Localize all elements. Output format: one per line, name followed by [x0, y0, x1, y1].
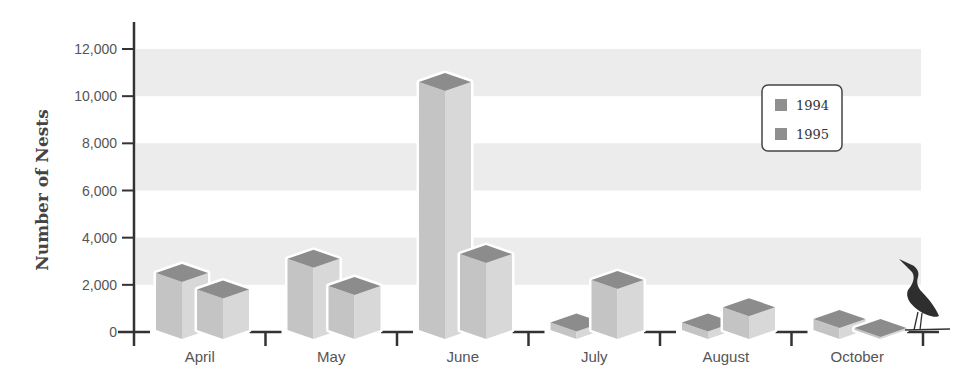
bar-1995-july — [592, 271, 644, 339]
bar-face-right — [355, 286, 381, 339]
x-tick-label: July — [581, 348, 608, 365]
x-tick-label: June — [446, 348, 479, 365]
heron-leg — [914, 312, 918, 330]
y-tick-label: 4,000 — [82, 230, 117, 246]
y-tick-label: 0 — [109, 324, 117, 340]
bar-1995-may — [329, 277, 381, 339]
bar-1995-june — [460, 245, 512, 339]
x-tick-label: August — [702, 348, 750, 365]
x-tick-label: April — [185, 348, 215, 365]
bar-face-right — [618, 280, 644, 339]
y-tick-label: 12,000 — [74, 41, 117, 57]
grid-band — [136, 238, 921, 285]
legend-swatch — [775, 128, 787, 140]
bar-face-left — [460, 254, 486, 339]
y-tick-label: 10,000 — [74, 88, 117, 104]
x-axis: AprilMayJuneJulyAugustOctober — [118, 332, 939, 365]
bar-face-left — [329, 286, 355, 339]
bar-1995-april — [197, 280, 249, 339]
legend-label: 1995 — [796, 127, 829, 142]
y-tick-label: 8,000 — [82, 135, 117, 151]
bar-face-left — [288, 259, 314, 339]
water-line — [905, 329, 950, 330]
bar-face-left — [156, 273, 182, 339]
y-tick-label: 6,000 — [82, 183, 117, 199]
legend: 19941995 — [762, 85, 842, 151]
nests-bar-chart: 02,0004,0006,0008,00010,00012,000 AprilM… — [0, 0, 973, 387]
legend-label: 1994 — [796, 98, 829, 113]
x-tick-label: May — [317, 348, 346, 365]
y-tick-label: 2,000 — [82, 277, 117, 293]
bar-1995-august — [723, 298, 775, 339]
y-axis: 02,0004,0006,0008,00010,00012,000 — [74, 22, 134, 346]
bar-face-left — [419, 82, 445, 339]
bar-face-left — [592, 280, 618, 339]
bar-face-right — [486, 254, 512, 339]
y-axis-label: Number of Nests — [32, 109, 52, 270]
legend-swatch — [775, 99, 787, 111]
heron-leg — [920, 313, 922, 330]
x-tick-label: October — [831, 348, 884, 365]
